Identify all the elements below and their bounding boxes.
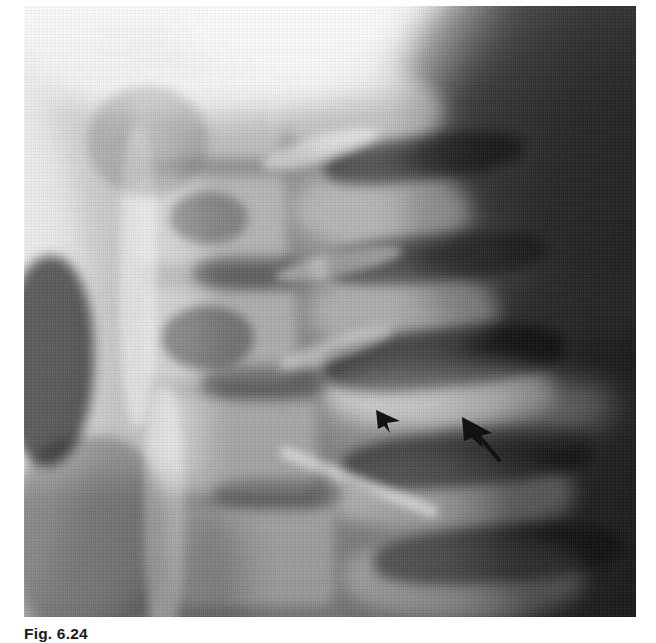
page-margin-top [0, 0, 656, 6]
page-margin-left [0, 0, 24, 643]
figure-page: Fig. 6.24 [0, 0, 656, 643]
film-base-tone [24, 6, 636, 617]
cervical-spine-radiograph [24, 6, 636, 617]
page-margin-bottom [0, 617, 656, 643]
figure-caption: Fig. 6.24 [24, 625, 88, 643]
page-margin-right [636, 0, 656, 643]
